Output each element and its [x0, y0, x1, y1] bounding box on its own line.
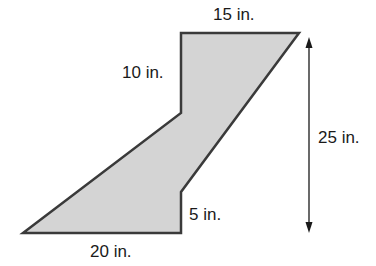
- notch-edge-label: 5 in.: [189, 205, 221, 225]
- top-edge-label: 15 in.: [213, 5, 255, 25]
- arrowhead-down-icon: [306, 222, 313, 233]
- arrowhead-up-icon: [306, 37, 313, 48]
- height-label: 25 in.: [318, 128, 360, 148]
- bottom-edge-label: 20 in.: [90, 242, 132, 262]
- upper-left-edge-label: 10 in.: [122, 63, 164, 83]
- height-dimension-arrow: [306, 37, 313, 233]
